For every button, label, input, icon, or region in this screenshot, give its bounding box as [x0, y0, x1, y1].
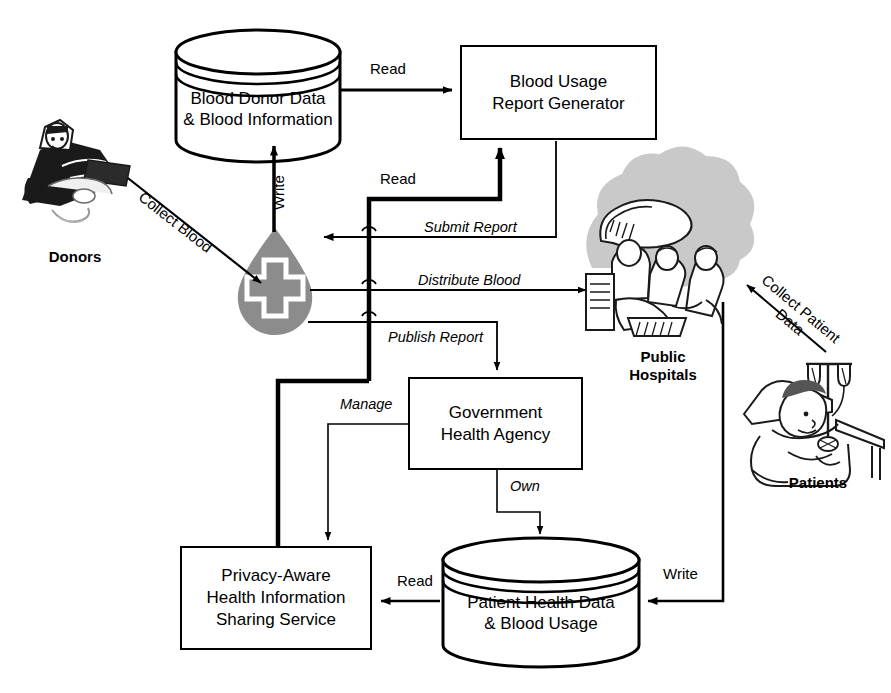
- privacy-aware-sharing-service-label: Privacy-Aware Health Information Sharing…: [207, 565, 346, 631]
- edge-label-submit-report: Submit Report: [424, 219, 517, 236]
- edge-write-patient-db: [648, 302, 723, 601]
- edge-label-distribute-blood: Distribute Blood: [418, 272, 520, 289]
- edge-manage: [328, 424, 408, 540]
- public-hospitals-illustration: [586, 146, 754, 336]
- diagram-canvas: Blood Donor Data & Blood Information Blo…: [0, 0, 891, 693]
- blood-usage-report-generator-label: Blood Usage Report Generator: [492, 71, 624, 115]
- edge-label-write-patient-db: Write: [663, 565, 698, 582]
- blood-drop-cross-icon: [238, 228, 312, 335]
- donors-label: Donors: [30, 248, 120, 266]
- edge-label-read-patient-db: Read: [397, 572, 433, 589]
- government-health-agency-box[interactable]: Government Health Agency: [408, 377, 583, 470]
- blood-usage-report-generator-box[interactable]: Blood Usage Report Generator: [460, 45, 657, 140]
- government-health-agency-label: Government Health Agency: [441, 402, 551, 446]
- edge-label-read-db-to-generator: Read: [370, 60, 406, 77]
- edge-label-publish-report: Publish Report: [388, 329, 483, 346]
- patients-label: Patients: [768, 474, 868, 492]
- edge-label-manage: Manage: [340, 396, 392, 413]
- diagram-edges-layer: [0, 0, 891, 693]
- public-hospitals-label: Public Hospitals: [608, 348, 718, 384]
- patients-illustration: [744, 364, 884, 486]
- edge-label-read-bank-to-generator: Read: [380, 170, 416, 187]
- patient-health-database-shape: [443, 538, 639, 667]
- edge-label-own: Own: [510, 478, 540, 495]
- blood-donor-database-shape: [176, 30, 340, 162]
- edge-label-write-bank-to-db: Write: [270, 175, 287, 210]
- privacy-aware-sharing-service-box[interactable]: Privacy-Aware Health Information Sharing…: [180, 546, 372, 650]
- donors-person-illustration: [22, 120, 130, 222]
